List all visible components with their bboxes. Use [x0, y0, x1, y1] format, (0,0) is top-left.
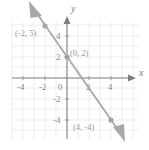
y-tick-label-4: 4 [56, 32, 61, 41]
data-point-neg2-5 [42, 23, 47, 28]
x-tick-label-minus2: -2 [39, 83, 47, 92]
y-tick-label-minus2: -2 [53, 95, 61, 104]
x-tick-label-zero: 0 [58, 83, 63, 92]
point-label-0-2: (0, 2) [70, 49, 88, 58]
x-tick-label-4: 4 [108, 83, 113, 92]
x-axis-name-label: x [139, 68, 143, 78]
point-label-4-neg4: (4, -4) [73, 123, 94, 132]
x-tick-label-2: 2 [86, 83, 91, 92]
y-axis-name-label: y [71, 4, 75, 14]
data-point-4-neg4 [108, 117, 113, 122]
x-tick-label-minus4: -4 [17, 83, 25, 92]
coordinate-plane-graph: -4 -2 0 2 4 4 2 -2 -4 y x (-2, 5) (0, 2)… [0, 0, 149, 150]
y-tick-label-minus4: -4 [53, 116, 61, 125]
y-tick-label-2: 2 [56, 53, 61, 62]
point-label-neg2-5: (-2, 5) [15, 29, 36, 38]
